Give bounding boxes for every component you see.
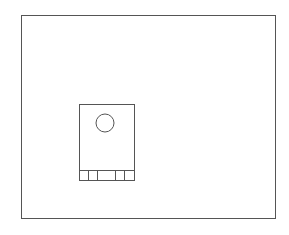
outer-frame [22,16,276,219]
bottom-strip [80,171,135,181]
strip-dividers [89,171,125,181]
mounting-hole-circle [96,114,114,132]
component-body [80,105,135,181]
diagram-canvas [0,0,289,235]
component [80,105,135,181]
